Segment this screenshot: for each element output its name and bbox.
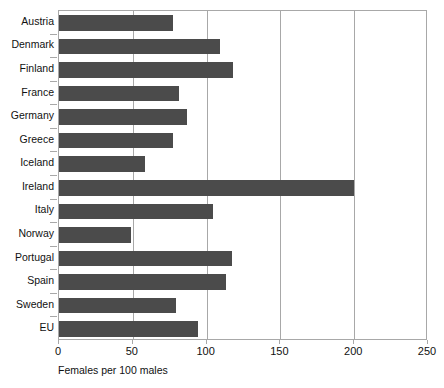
bar-row: [59, 176, 426, 200]
y-axis-tick: [50, 316, 57, 317]
bar-row: [59, 247, 426, 271]
y-axis-tick: [50, 34, 57, 35]
bar-row: [59, 105, 426, 129]
y-axis-labels: AustriaDenmarkFinlandFranceGermanyGreece…: [0, 10, 54, 340]
y-axis-label-france: France: [2, 87, 54, 98]
y-axis-tick: [50, 175, 57, 176]
bar-row: [59, 129, 426, 153]
y-axis-tick: [50, 222, 57, 223]
x-axis-tick-label-200: 200: [344, 345, 362, 357]
x-axis-tick-0: [58, 340, 59, 344]
y-axis-label-italy: Italy: [2, 204, 54, 215]
bar-row: [59, 58, 426, 82]
bar-spain: [59, 274, 226, 290]
bar-denmark: [59, 39, 220, 55]
bar-france: [59, 86, 179, 102]
bar-norway: [59, 227, 131, 243]
bar-sweden: [59, 298, 176, 314]
y-axis-tick: [50, 269, 57, 270]
bar-row: [59, 270, 426, 294]
bar-row: [59, 35, 426, 59]
y-axis-tick: [50, 199, 57, 200]
y-axis-label-greece: Greece: [2, 134, 54, 145]
bar-row: [59, 223, 426, 247]
x-axis-tick-250: [427, 340, 428, 344]
bar-austria: [59, 15, 173, 31]
bar-row: [59, 294, 426, 318]
y-axis-label-finland: Finland: [2, 63, 54, 74]
y-axis-tick: [50, 246, 57, 247]
bar-ireland: [59, 180, 354, 196]
bar-eu: [59, 321, 198, 337]
x-axis-ticks: [0, 340, 444, 346]
bar-portugal: [59, 251, 232, 267]
x-axis-tick-label-50: 50: [126, 345, 138, 357]
bar-italy: [59, 204, 213, 220]
bar-iceland: [59, 156, 145, 172]
x-axis-title: Females per 100 males: [58, 364, 168, 376]
x-axis-tick-200: [353, 340, 354, 344]
y-axis-label-ireland: Ireland: [2, 181, 54, 192]
x-axis-tick-label-0: 0: [55, 345, 61, 357]
y-axis-tick: [50, 57, 57, 58]
y-axis-tick: [50, 293, 57, 294]
bar-greece: [59, 133, 173, 149]
bar-row: [59, 11, 426, 35]
x-axis-tick-label-150: 150: [270, 345, 288, 357]
plot-area: [58, 10, 427, 340]
x-axis-tick-100: [206, 340, 207, 344]
y-axis-tick: [50, 104, 57, 105]
y-axis-label-denmark: Denmark: [2, 39, 54, 50]
y-axis-label-eu: EU: [2, 322, 54, 333]
y-axis-tick: [50, 151, 57, 152]
y-axis-label-sweden: Sweden: [2, 299, 54, 310]
bar-row: [59, 317, 426, 341]
y-axis-label-norway: Norway: [2, 228, 54, 239]
x-axis-tick-label-250: 250: [418, 345, 436, 357]
bar-chart: AustriaDenmarkFinlandFranceGermanyGreece…: [0, 0, 444, 388]
y-axis-label-portugal: Portugal: [2, 252, 54, 263]
y-axis-label-spain: Spain: [2, 275, 54, 286]
y-axis-label-austria: Austria: [2, 16, 54, 27]
bar-finland: [59, 62, 233, 78]
bar-row: [59, 200, 426, 224]
x-axis-tick-50: [132, 340, 133, 344]
y-axis-tick: [50, 128, 57, 129]
bar-row: [59, 82, 426, 106]
y-axis-label-germany: Germany: [2, 110, 54, 121]
bar-germany: [59, 109, 187, 125]
y-axis-label-iceland: Iceland: [2, 157, 54, 168]
x-axis-tick-150: [279, 340, 280, 344]
x-axis-tick-label-100: 100: [196, 345, 214, 357]
y-axis-tick: [50, 81, 57, 82]
bar-row: [59, 152, 426, 176]
